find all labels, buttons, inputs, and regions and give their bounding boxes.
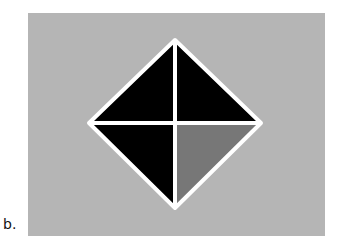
diamond-figure <box>0 0 344 246</box>
figure-caption: b. <box>3 216 16 232</box>
